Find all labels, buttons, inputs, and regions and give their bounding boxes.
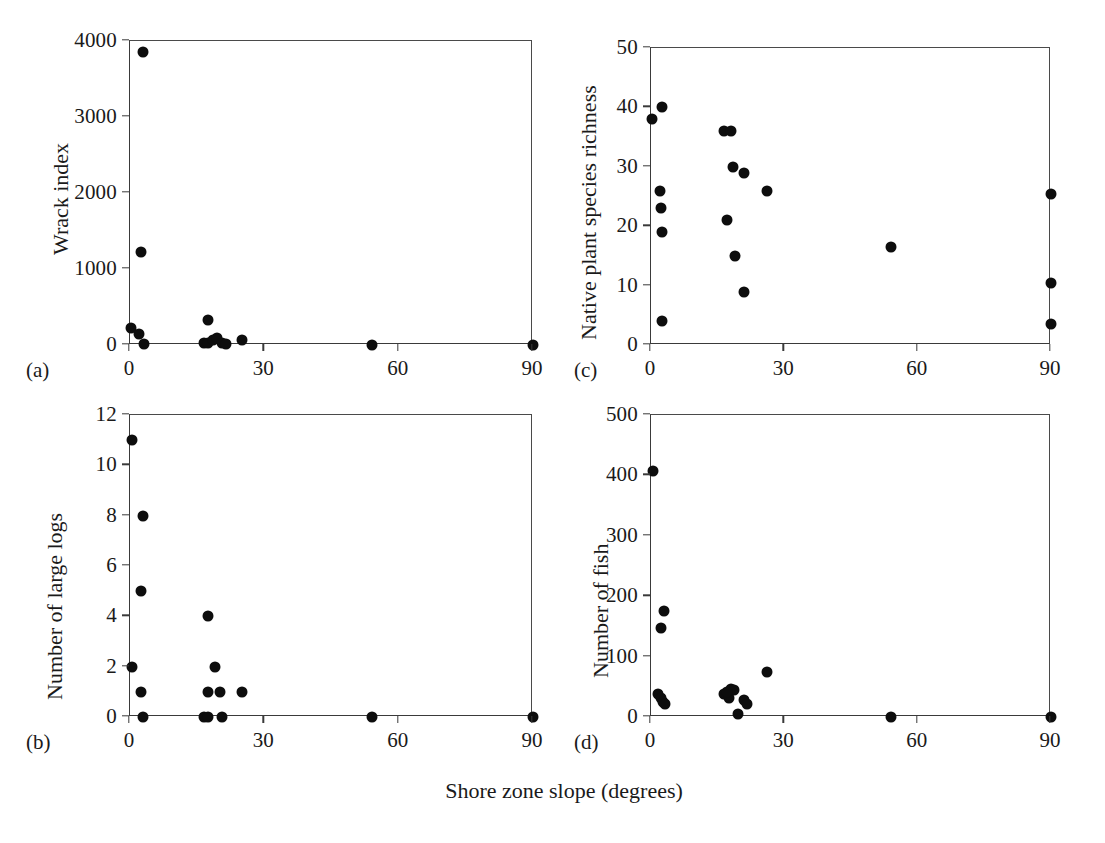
plot-area-c <box>650 47 1050 344</box>
plot-area-a <box>129 40 532 344</box>
data-point <box>657 316 668 327</box>
data-point <box>742 698 753 709</box>
data-point <box>722 686 733 697</box>
data-point <box>236 686 247 697</box>
y-tick-mark <box>122 267 129 268</box>
y-tick-mark <box>643 594 650 595</box>
x-tick-label: 60 <box>387 728 408 753</box>
panel-letter-b: (b) <box>26 730 51 755</box>
y-tick-label: 2 <box>106 653 117 678</box>
x-tick-label: 60 <box>906 728 927 753</box>
x-tick-label: 0 <box>124 728 135 753</box>
y-tick-label: 0 <box>106 704 117 729</box>
data-point <box>138 510 149 521</box>
plot-area-b <box>129 414 532 716</box>
y-tick-label: 0 <box>106 332 117 357</box>
data-point <box>138 712 149 723</box>
y-tick-label: 30 <box>617 153 638 178</box>
y-tick-label: 40 <box>617 94 638 119</box>
x-tick-mark <box>531 716 532 723</box>
data-point <box>210 661 221 672</box>
x-tick-mark <box>649 344 650 351</box>
data-point <box>1046 319 1057 330</box>
y-tick-mark <box>122 115 129 116</box>
x-tick-label: 30 <box>773 356 794 381</box>
y-tick-mark <box>122 39 129 40</box>
x-tick-label: 30 <box>773 728 794 753</box>
y-tick-label: 500 <box>606 402 638 427</box>
data-point <box>236 335 247 346</box>
x-tick-mark <box>1049 716 1050 723</box>
x-tick-label: 30 <box>253 728 274 753</box>
panel-letter-c: (c) <box>574 358 597 383</box>
x-tick-mark <box>128 344 129 351</box>
x-tick-mark <box>783 716 784 723</box>
data-point <box>761 185 772 196</box>
x-tick-label: 0 <box>645 728 656 753</box>
x-tick-label: 0 <box>124 356 135 381</box>
data-point <box>659 606 670 617</box>
x-tick-mark <box>783 344 784 351</box>
y-tick-mark <box>122 464 129 465</box>
y-tick-label: 50 <box>617 35 638 60</box>
y-tick-mark <box>643 106 650 107</box>
y-tick-mark <box>122 514 129 515</box>
data-point <box>654 185 665 196</box>
data-point <box>1046 712 1057 723</box>
data-point <box>366 340 377 351</box>
y-tick-mark <box>122 413 129 414</box>
y-tick-mark <box>643 46 650 47</box>
data-point <box>721 215 732 226</box>
x-tick-mark <box>1049 344 1050 351</box>
y-axis-label-b: Number of large logs <box>42 513 68 700</box>
x-tick-label: 60 <box>387 356 408 381</box>
data-point <box>528 340 539 351</box>
y-tick-label: 4 <box>106 603 117 628</box>
y-tick-label: 8 <box>106 502 117 527</box>
data-point <box>127 661 138 672</box>
data-point <box>214 686 225 697</box>
x-tick-mark <box>263 716 264 723</box>
x-tick-mark <box>263 344 264 351</box>
y-tick-mark <box>122 564 129 565</box>
data-point <box>221 339 232 350</box>
shared-x-axis-title: Shore zone slope (degrees) <box>445 778 683 804</box>
y-tick-label: 200 <box>606 583 638 608</box>
data-point <box>732 708 743 719</box>
data-point <box>761 667 772 678</box>
y-axis-label-c: Native plant species richness <box>576 85 602 340</box>
data-point <box>655 622 666 633</box>
y-tick-label: 10 <box>617 272 638 297</box>
y-tick-label: 400 <box>606 462 638 487</box>
x-tick-mark <box>531 344 532 351</box>
panel-letter-a: (a) <box>26 358 49 383</box>
y-tick-label: 2000 <box>74 180 117 205</box>
x-tick-label: 60 <box>906 356 927 381</box>
data-point <box>728 161 739 172</box>
data-point <box>528 712 539 723</box>
data-point <box>657 102 668 113</box>
y-tick-label: 0 <box>627 704 638 729</box>
data-point <box>366 712 377 723</box>
data-point <box>726 126 737 137</box>
y-tick-label: 3000 <box>74 104 117 129</box>
x-tick-mark <box>128 716 129 723</box>
y-tick-label: 20 <box>617 213 638 238</box>
y-tick-mark <box>643 655 650 656</box>
data-point <box>136 586 147 597</box>
y-tick-label: 12 <box>96 402 117 427</box>
data-point <box>1046 277 1057 288</box>
y-tick-label: 4000 <box>74 28 117 53</box>
x-tick-label: 30 <box>253 356 274 381</box>
x-tick-mark <box>649 716 650 723</box>
data-point <box>730 250 741 261</box>
y-tick-label: 10 <box>96 452 117 477</box>
data-point <box>203 712 214 723</box>
panel-b: Number of large logs (b) 024681012030609… <box>0 390 552 780</box>
data-point <box>739 286 750 297</box>
data-point <box>655 203 666 214</box>
data-point <box>739 167 750 178</box>
y-tick-mark <box>643 413 650 414</box>
data-point <box>886 241 897 252</box>
x-tick-label: 90 <box>1040 728 1061 753</box>
